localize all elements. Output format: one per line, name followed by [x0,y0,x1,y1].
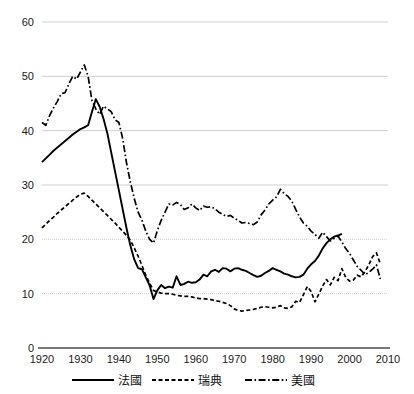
y-tick-label-10: 10 [22,288,34,300]
y-tick-label-30: 30 [22,179,34,191]
series-line-2 [42,65,380,279]
x-tick-label-1960: 1960 [184,353,208,365]
data-series-group [42,65,380,311]
y-tick-label-40: 40 [22,125,34,137]
x-tick-label-1920: 1920 [30,353,54,365]
x-tick-label-1950: 1950 [145,353,169,365]
legend-label-2: 美國 [291,374,315,388]
y-tick-label-60: 60 [22,16,34,28]
x-tick-label-2000: 2000 [337,353,361,365]
y-tick-label-20: 20 [22,233,34,245]
line-chart: 0102030405060 19201930194019501960197019… [0,0,414,394]
chart-container: 0102030405060 19201930194019501960197019… [0,0,414,394]
y-tick-label-50: 50 [22,70,34,82]
legend-label-0: 法國 [118,374,142,388]
y-axis-tick-labels: 0102030405060 [22,16,34,354]
x-tick-label-1940: 1940 [107,353,131,365]
gridlines-group [42,22,388,294]
x-tick-label-1930: 1930 [68,353,92,365]
chart-legend: 法國瑞典美國 [72,374,315,388]
x-tick-label-1970: 1970 [222,353,246,365]
series-line-0 [42,99,342,299]
x-tick-label-1980: 1980 [260,353,284,365]
legend-label-1: 瑞典 [198,374,222,388]
x-tick-label-2010: 2010 [376,353,400,365]
x-tick-label-1990: 1990 [299,353,323,365]
x-axis-tick-labels: 1920193019401950196019701980199020002010 [30,353,400,365]
